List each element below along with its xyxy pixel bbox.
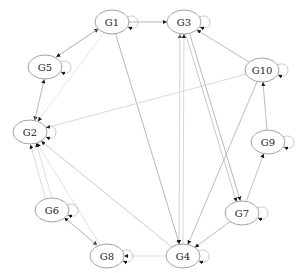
node-label: G4	[176, 251, 190, 262]
node-g8: G8	[90, 244, 124, 268]
node-label: G7	[235, 208, 249, 219]
edge-g4-to-g2	[41, 141, 172, 247]
node-label: G5	[38, 62, 52, 73]
edge-g6-to-g2	[30, 145, 45, 199]
node-label: G3	[177, 17, 191, 28]
edge-g3-to-g7	[186, 34, 237, 202]
edge-g7-to-g4	[195, 222, 230, 248]
node-label: G1	[105, 17, 119, 28]
node-label: G10	[252, 65, 273, 76]
edge-g8-to-g6	[64, 218, 97, 246]
node-g4: G4	[166, 244, 200, 268]
node-label: G9	[261, 137, 275, 148]
edge-g7-to-g9	[246, 154, 263, 202]
edge-g1-to-g4	[116, 34, 180, 245]
node-g1: G1	[95, 10, 129, 34]
network-graph: G1G3G5G10G2G9G6G7G8G4	[0, 0, 301, 273]
edge-g9-to-g10	[263, 82, 267, 130]
node-g10: G10	[245, 58, 279, 82]
nodes-layer: G1G3G5G10G2G9G6G7G8G4	[13, 10, 285, 268]
node-label: G8	[100, 251, 114, 262]
node-label: G6	[45, 205, 59, 216]
edge-g6-to-g2	[36, 143, 51, 197]
node-label: G2	[23, 127, 37, 138]
edge-g1-to-g5	[56, 29, 98, 57]
node-g2: G2	[13, 120, 47, 144]
node-g7: G7	[225, 201, 259, 225]
node-g3: G3	[167, 10, 201, 34]
edge-g10-to-g3	[197, 30, 249, 62]
node-g9: G9	[251, 130, 285, 154]
edge-g4-to-g3	[183, 34, 184, 244]
edge-g8-to-g2	[37, 143, 100, 245]
node-g5: G5	[28, 55, 62, 79]
node-g6: G6	[35, 198, 69, 222]
edge-g3-to-g4	[179, 34, 180, 244]
edge-g3-to-g7	[189, 33, 240, 201]
